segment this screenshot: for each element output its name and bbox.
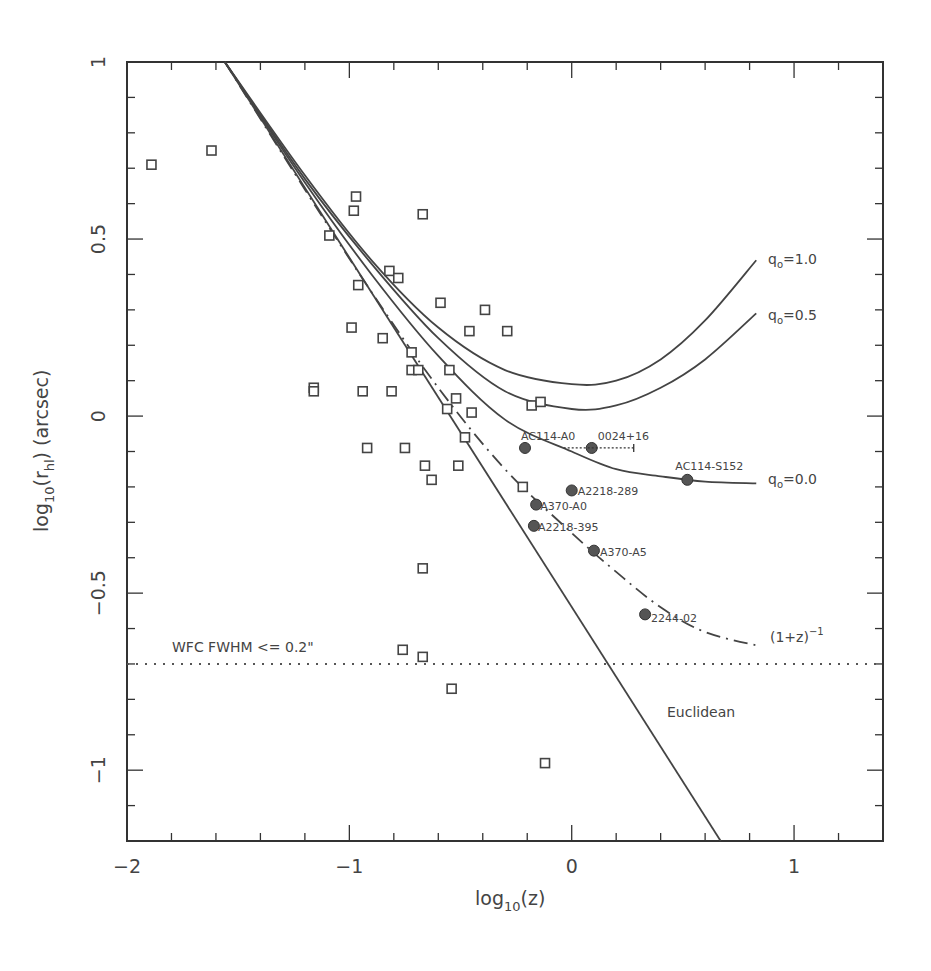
data-points: AC114-A00024+16AC114-S152A2218-289A370-A… [147,146,743,768]
point-label: A370-A0 [540,500,587,513]
open-square-point [378,334,387,343]
open-square-point [418,564,427,573]
point-label: A2218-395 [538,521,598,534]
open-square-point [347,323,356,332]
open-square-point [427,475,436,484]
x-tick-label: −2 [113,855,141,877]
open-square-point [147,160,156,169]
open-square-point [518,482,527,491]
x-axis-label: log10(z) [475,887,545,914]
curve-q0-0-0 [225,62,756,483]
open-square-point [418,210,427,219]
point-label: 0024+16 [598,430,649,443]
open-square-point [420,461,429,470]
y-tick-label: 1 [87,56,109,68]
open-square-point [352,192,361,201]
open-square-point [467,408,476,417]
x-tick-label: 1 [788,855,800,877]
y-axis-label: log10(rhl) (arcsec) [30,370,57,532]
open-square-point [503,327,512,336]
filled-circle-point [566,485,577,496]
label-one-plus-z: (1+z)−1 [770,626,824,645]
axes-box [127,62,883,841]
open-square-point [354,281,363,290]
open-square-point [465,327,474,336]
x-tick-label: −1 [335,855,363,877]
open-square-point [418,652,427,661]
open-square-point [398,645,407,654]
open-square-point [447,684,456,693]
y-tick-label: −1 [87,756,109,784]
scatter-chart: −2−10110.50−0.5−1 AC114-A00024+16AC114-S… [0,0,931,971]
point-label: 2244-02 [651,612,697,625]
open-square-point [363,443,372,452]
filled-circle-point [640,609,651,620]
open-square-point [309,387,318,396]
axis-ticks [127,62,883,841]
open-square-point [414,366,423,375]
open-square-point [452,394,461,403]
y-tick-label: 0 [87,410,109,422]
open-square-point [400,443,409,452]
filled-circle-point [588,545,599,556]
label-q0-0.5: qo=0.5 [768,307,817,326]
open-square-point [358,387,367,396]
curve-q0-0-5 [225,62,756,410]
filled-circle-point [682,474,693,485]
open-square-point [541,759,550,768]
filled-circle-point [520,442,531,453]
open-square-point [460,433,469,442]
open-square-point [527,401,536,410]
open-square-point [394,273,403,282]
open-square-point [385,266,394,275]
open-square-point [443,405,452,414]
open-square-point [536,397,545,406]
label-wfc-fwhm: WFC FWHM <= 0.2" [172,639,314,655]
label-q0-0.0: qo=0.0 [768,471,817,490]
point-label: A2218-289 [578,485,638,498]
open-square-point [436,298,445,307]
y-tick-label: 0.5 [87,224,109,254]
y-tick-label: −0.5 [87,570,109,616]
open-square-point [325,231,334,240]
x-tick-label: 0 [566,855,578,877]
curve--1-z-1 [225,62,761,646]
open-square-point [445,366,454,375]
curve-q0-1-0 [225,62,756,385]
open-square-point [207,146,216,155]
point-label: AC114-A0 [521,430,575,443]
point-label: AC114-S152 [675,460,743,473]
open-square-point [480,305,489,314]
plot-frame [127,62,883,841]
label-euclidean: Euclidean [667,704,735,720]
curve-euclidean [225,62,721,841]
model-curves [127,62,883,841]
open-square-point [349,206,358,215]
open-square-point [454,461,463,470]
open-square-point [387,387,396,396]
point-label: A370-A5 [600,546,647,559]
open-square-point [407,348,416,357]
label-q0-1.0: qo=1.0 [768,251,817,270]
